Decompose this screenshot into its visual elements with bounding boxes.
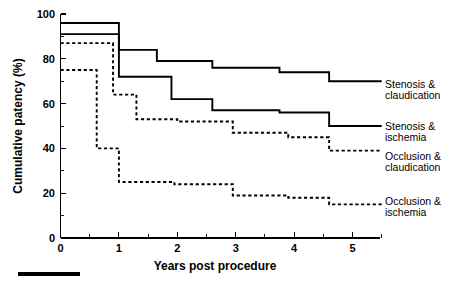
y-ticklabel: 60 — [43, 98, 55, 110]
legend-item: Stenosis &claudication — [385, 78, 441, 101]
legend-label-line2: claudication — [385, 161, 441, 173]
x-ticklabel: 5 — [349, 242, 355, 254]
km-chart: 020406080100 012345 Cumulative patency (… — [0, 0, 469, 287]
y-ticklabel: 80 — [43, 53, 55, 65]
y-ticklabel-group: 020406080100 — [37, 8, 55, 244]
x-ticklabel: 1 — [116, 242, 122, 254]
x-ticklabel: 2 — [174, 242, 180, 254]
x-axis-title: Years post procedure — [154, 259, 277, 273]
y-ticklabel: 0 — [49, 232, 55, 244]
legend-item: Occlusion &claudication — [385, 150, 441, 173]
curve-series-0 — [61, 23, 382, 81]
y-ticklabel: 20 — [43, 187, 55, 199]
y-ticklabel: 40 — [43, 142, 55, 154]
curve-series-1 — [61, 34, 382, 126]
legend-item: Occlusion &ischemia — [385, 195, 441, 218]
y-axis-title: Cumulative patency (%) — [11, 58, 25, 193]
legend-label-line2: claudication — [385, 89, 441, 101]
curve-series-3 — [61, 70, 382, 204]
curve-series-2 — [61, 43, 382, 151]
x-tick-group — [61, 232, 382, 238]
figure-container: 020406080100 012345 Cumulative patency (… — [0, 0, 469, 287]
legend-group: Stenosis &claudicationStenosis &ischemia… — [385, 78, 441, 218]
x-ticklabel: 3 — [233, 242, 239, 254]
x-ticklabel: 0 — [57, 242, 63, 254]
x-ticklabel-group: 012345 — [57, 242, 355, 254]
legend-label-line2: ischemia — [385, 131, 427, 143]
x-ticklabel: 4 — [291, 242, 298, 254]
y-tick-group — [61, 14, 67, 238]
legend-label-line2: ischemia — [385, 206, 427, 218]
y-ticklabel: 100 — [37, 8, 55, 20]
scale-bar — [18, 272, 80, 276]
data-curves-group — [61, 23, 382, 204]
legend-item: Stenosis &ischemia — [385, 120, 435, 143]
